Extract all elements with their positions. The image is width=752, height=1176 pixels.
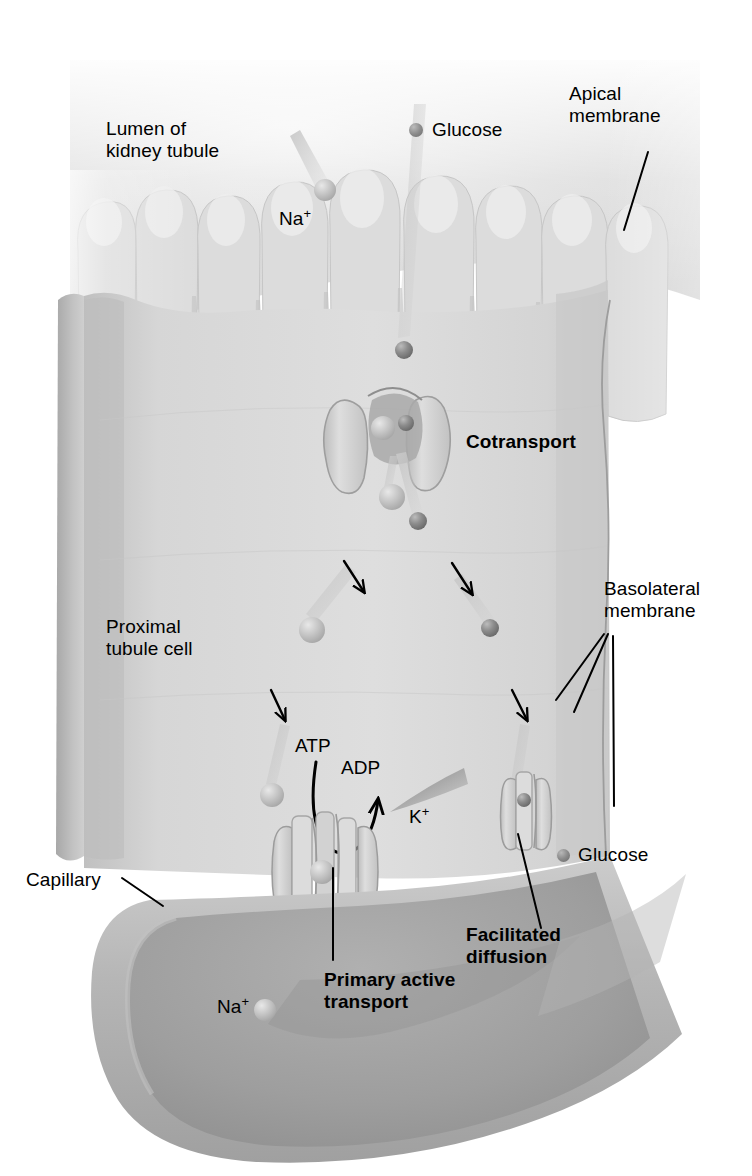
label-primary-active-transport: Primary active transport	[324, 969, 455, 1013]
label-basolateral-membrane: Basolateral membrane	[604, 578, 700, 622]
leader-basolateral-3	[613, 636, 614, 806]
label-adp: ADP	[341, 757, 380, 779]
na-particle	[379, 484, 405, 510]
glucose-transporter-protein	[501, 772, 552, 850]
label-na-lumen-text: Na	[279, 208, 304, 229]
label-glucose-top: Glucose	[432, 119, 502, 141]
na-capillary-superscript: +	[242, 994, 250, 1009]
glucose-particle	[398, 415, 414, 431]
na-particle	[314, 179, 336, 201]
k-superscript: +	[422, 804, 430, 819]
label-atp: ATP	[295, 735, 331, 757]
glucose-particle	[481, 619, 499, 637]
label-apical-membrane: Apical membrane	[569, 83, 661, 127]
glucose-legend-marker-bottom	[557, 849, 570, 862]
label-potassium-text: K	[409, 806, 422, 827]
label-na-capillary: Na+	[217, 996, 249, 1018]
label-na-capillary-text: Na	[217, 996, 242, 1017]
label-facilitated-diffusion: Facilitated diffusion	[466, 924, 561, 968]
na-particle	[254, 999, 276, 1021]
na-particle	[260, 783, 284, 807]
label-cotransport: Cotransport	[466, 431, 576, 453]
figure-canvas: Lumen of kidney tubule Na+ Glucose Apica…	[0, 0, 752, 1176]
glucose-particle	[409, 512, 427, 530]
na-particle	[299, 617, 325, 643]
na-superscript: +	[304, 206, 312, 221]
label-glucose-bottom: Glucose	[578, 844, 648, 866]
glucose-legend-marker-top	[409, 123, 423, 137]
label-proximal-tubule-cell: Proximal tubule cell	[106, 616, 193, 660]
label-capillary: Capillary	[26, 869, 101, 891]
label-na-lumen: Na+	[279, 208, 311, 230]
glucose-particle	[395, 341, 413, 359]
na-particle	[310, 860, 334, 884]
label-potassium: K+	[409, 806, 429, 828]
label-lumen-of-kidney-tubule: Lumen of kidney tubule	[106, 118, 219, 162]
na-particle	[371, 416, 395, 440]
glucose-particle	[517, 793, 531, 807]
